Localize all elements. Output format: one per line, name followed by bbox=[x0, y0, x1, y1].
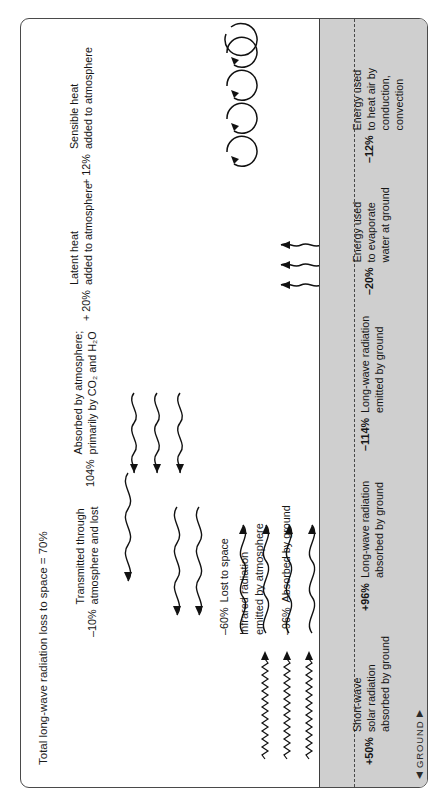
ground-label-longwave-emitted: –114% Long-wave radiation emitted by gro… bbox=[358, 311, 386, 451]
zigzag-arrow-icon bbox=[257, 643, 319, 761]
ground-longwave-emitted-text: Long-wave radiation emitted by ground bbox=[358, 316, 386, 413]
label-absorbed-by-atmosphere-text: Absorbed by atmosphere; primarily by CO₂… bbox=[71, 331, 99, 455]
label-transmitted-text: Transmitted through atmosphere and lost bbox=[73, 507, 101, 605]
label-absorbed-by-atmosphere: 104% Absorbed by atmosphere; primarily b… bbox=[71, 297, 99, 487]
transmitted-arrow-group bbox=[117, 471, 139, 591]
latent-heat-arrow-group bbox=[247, 231, 323, 295]
ground-evaporate-text: Energy used to evaporate water at ground bbox=[350, 187, 392, 262]
ground-label-shortwave-absorbed: +50% Short-wave solar radiation absorbed… bbox=[350, 633, 392, 765]
label-sensible-heat: + 12% Sensible heat added to atmosphere bbox=[67, 18, 95, 185]
label-lost-to-space-text: Lost to space bbox=[217, 538, 231, 602]
label-lost-to-space: –60% Lost to space bbox=[217, 485, 231, 635]
ground-label-group: ◀ GROUND ▶ bbox=[414, 710, 425, 779]
downward-longwave-arrow-group bbox=[233, 501, 325, 637]
label-sensible-heat-percent: + 12% bbox=[67, 154, 93, 185]
ground-heat-air-text: Energy used to heat air by conduction, c… bbox=[350, 27, 406, 130]
label-transmitted-percent: –10% bbox=[73, 609, 99, 637]
ground-evaporate-percent: –20% bbox=[350, 267, 376, 295]
label-latent-heat-text: Latent heat added to atmosphere bbox=[67, 183, 95, 285]
shortwave-solar-arrow-group bbox=[257, 643, 319, 761]
ground-label-longwave-absorbed: +96% Long-wave radiation absorbed by gro… bbox=[358, 471, 386, 611]
wave-arrow-icon bbox=[117, 471, 139, 591]
convection-circles-group bbox=[217, 25, 273, 175]
ground-longwave-emitted-percent: –114% bbox=[358, 418, 372, 451]
page-title: Total long-wave radiation loss to space … bbox=[37, 531, 49, 765]
wave-arrow-icon bbox=[125, 391, 195, 487]
figure-frame: Total long-wave radiation loss to space … bbox=[20, 18, 428, 788]
convection-swirl-icon bbox=[217, 25, 273, 175]
ground-label-energy-heat-air: –12% Energy used to heat air by conducti… bbox=[350, 27, 406, 163]
ground-heat-air-percent: –12% bbox=[350, 135, 376, 163]
upward-longwave-arrow-group bbox=[125, 391, 195, 487]
radiation-budget-figure: Total long-wave radiation loss to space … bbox=[20, 18, 428, 788]
wave-arrow-icon bbox=[233, 501, 325, 637]
right-arrow-icon: ▶ bbox=[415, 710, 424, 718]
figure-stage: Total long-wave radiation loss to space … bbox=[0, 0, 448, 806]
ground-shortwave-percent: +50% bbox=[350, 737, 376, 765]
ground-longwave-absorbed-text: Long-wave radiation absorbed by ground bbox=[358, 481, 386, 578]
label-latent-heat-percent: + 20% bbox=[67, 290, 93, 321]
squiggle-arrow-icon bbox=[247, 231, 323, 295]
ground-label-energy-evaporate: –20% Energy used to evaporate water at g… bbox=[350, 177, 392, 295]
label-absorbed-by-atmosphere-percent: 104% bbox=[71, 459, 97, 487]
ground-shortwave-text: Short-wave solar radiation absorbed by g… bbox=[350, 636, 392, 732]
lost-to-space-arrow-group bbox=[167, 505, 207, 637]
ground-longwave-absorbed-percent: +96% bbox=[358, 583, 372, 611]
label-lost-to-space-percent: –60% bbox=[217, 607, 231, 635]
ground-band: ◀ GROUND ▶ +50% Short-wave solar radiati… bbox=[319, 19, 427, 787]
left-arrow-icon: ◀ bbox=[415, 771, 424, 779]
label-sensible-heat-text: Sensible heat added to atmosphere bbox=[67, 47, 95, 149]
label-transmitted: –10% Transmitted through atmosphere and … bbox=[73, 469, 101, 637]
wave-arrow-icon bbox=[167, 505, 207, 637]
ground-label: GROUND bbox=[414, 720, 425, 768]
